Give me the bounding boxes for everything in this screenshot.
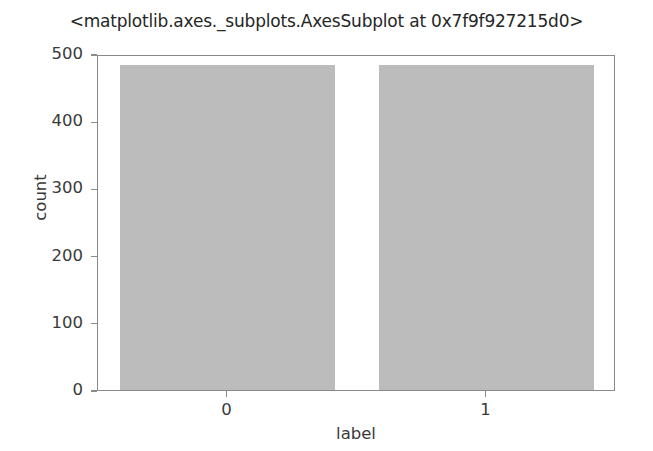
y-tick-mark bbox=[91, 54, 97, 55]
x-tick-mark bbox=[485, 391, 486, 397]
y-tick-label: 500 bbox=[1, 44, 83, 63]
plot-axes bbox=[97, 55, 615, 391]
chart-title: <matplotlib.axes._subplots.AxesSubplot a… bbox=[0, 11, 653, 31]
x-axis-label: label bbox=[97, 424, 615, 443]
y-tick-mark bbox=[91, 390, 97, 391]
matplotlib-figure: <matplotlib.axes._subplots.AxesSubplot a… bbox=[0, 0, 653, 451]
y-tick-mark bbox=[91, 256, 97, 257]
y-tick-label: 400 bbox=[1, 111, 83, 130]
y-tick-label: 200 bbox=[1, 246, 83, 265]
x-tick-label: 0 bbox=[197, 400, 257, 419]
x-tick-mark bbox=[226, 391, 227, 397]
y-tick-label: 0 bbox=[1, 380, 83, 399]
bar-1 bbox=[379, 65, 594, 390]
bar-0 bbox=[120, 65, 335, 390]
y-axis-label: count bbox=[31, 153, 50, 243]
x-tick-label: 1 bbox=[456, 400, 516, 419]
y-tick-mark bbox=[91, 189, 97, 190]
y-tick-label: 300 bbox=[1, 178, 83, 197]
y-tick-label: 100 bbox=[1, 313, 83, 332]
y-tick-mark bbox=[91, 122, 97, 123]
y-tick-mark bbox=[91, 323, 97, 324]
plot-area bbox=[98, 56, 614, 390]
